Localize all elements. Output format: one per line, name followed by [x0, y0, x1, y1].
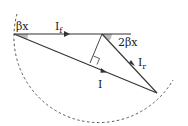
label-2beta-x: 2βx	[118, 37, 138, 48]
dashed-circle-arc	[14, 14, 173, 123]
I-arrow	[101, 68, 108, 73]
label-I-r: Ir	[138, 57, 146, 71]
I-r-arrow	[129, 60, 135, 66]
label-I-r-sub: r	[142, 62, 146, 71]
phasor-diagram	[0, 0, 188, 126]
perpendicular-line	[90, 34, 102, 63]
label-I-f: If	[55, 21, 62, 35]
I-f-arrow	[64, 31, 70, 37]
label-beta-x: βx	[16, 21, 29, 32]
right-angle-marker	[94, 56, 100, 65]
label-I: I	[98, 79, 102, 90]
label-I-f-sub: f	[59, 26, 62, 35]
